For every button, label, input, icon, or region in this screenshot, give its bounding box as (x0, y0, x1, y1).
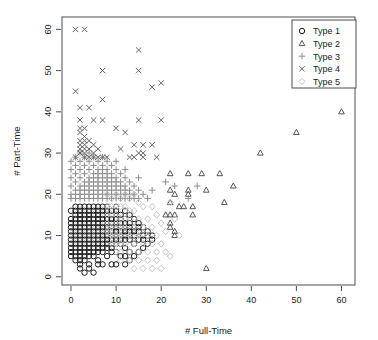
x-tick-label: 30 (201, 295, 211, 305)
marker-diamond (140, 203, 146, 209)
y-tick-label: 60 (43, 24, 53, 34)
marker-circle (140, 245, 145, 250)
marker-triangle (221, 199, 227, 204)
marker-plus (68, 175, 74, 181)
marker-plus (194, 183, 200, 189)
marker-cross (113, 126, 118, 131)
marker-cross (73, 27, 78, 32)
marker-plus (131, 183, 137, 189)
marker-cross (91, 117, 96, 122)
legend-label-1: Type 1 (313, 26, 340, 36)
marker-plus (149, 187, 155, 193)
marker-plus (122, 175, 128, 181)
marker-triangle (167, 171, 173, 176)
marker-triangle (190, 204, 196, 209)
x-tick-label: 20 (156, 295, 166, 305)
marker-cross (149, 84, 154, 89)
marker-circle (104, 253, 109, 258)
marker-triangle (203, 265, 209, 270)
marker-triangle (217, 171, 223, 176)
marker-triangle (199, 171, 205, 176)
marker-plus (77, 166, 83, 172)
series-1 (68, 204, 155, 275)
marker-circle (131, 253, 136, 258)
marker-diamond (145, 257, 151, 263)
marker-circle (122, 262, 127, 267)
marker-cross (149, 142, 154, 147)
marker-triangle (339, 109, 345, 114)
scatter-plot-figure: 01020304050600102030405060# Full-Time# P… (0, 0, 378, 340)
marker-plus (113, 166, 119, 172)
legend-label-4: Type 4 (313, 64, 340, 74)
marker-cross (136, 117, 141, 122)
x-tick-label: 40 (246, 295, 256, 305)
marker-circle (122, 245, 127, 250)
marker-plus (162, 179, 168, 185)
x-tick-label: 60 (336, 295, 346, 305)
marker-diamond (158, 265, 164, 271)
marker-plus (68, 166, 74, 172)
marker-plus (86, 166, 92, 172)
x-tick-label: 10 (111, 295, 121, 305)
marker-cross (82, 27, 87, 32)
marker-diamond (154, 257, 160, 263)
marker-plus (171, 183, 177, 189)
marker-diamond (154, 212, 160, 218)
marker-cross (77, 105, 82, 110)
marker-plus (68, 183, 74, 189)
marker-circle (91, 270, 96, 275)
legend-label-5: Type 5 (313, 77, 340, 87)
marker-diamond (140, 265, 146, 271)
marker-circle (127, 212, 132, 217)
marker-cross (136, 47, 141, 52)
marker-diamond (163, 249, 169, 255)
marker-plus (77, 175, 83, 181)
marker-cross (158, 80, 163, 85)
y-tick-label: 40 (43, 107, 53, 117)
y-tick-label: 30 (43, 148, 53, 158)
series-4 (73, 27, 164, 160)
marker-cross (100, 117, 105, 122)
marker-cross (131, 142, 136, 147)
marker-diamond (131, 265, 137, 271)
y-tick-label: 50 (43, 66, 53, 76)
marker-plus (72, 162, 78, 168)
marker-cross (131, 154, 136, 159)
marker-cross (158, 117, 163, 122)
marker-plus (90, 162, 96, 168)
legend-label-2: Type 2 (313, 39, 340, 49)
marker-plus (72, 170, 78, 176)
marker-plus (108, 162, 114, 168)
marker-diamond (149, 265, 155, 271)
marker-plus (113, 158, 119, 164)
marker-cross (127, 154, 132, 159)
series-2 (163, 109, 344, 271)
marker-diamond (158, 220, 164, 226)
y-axis-label: # Part-Time (11, 126, 22, 175)
marker-plus (135, 195, 141, 201)
marker-cross (77, 117, 82, 122)
marker-plus (81, 162, 87, 168)
marker-triangle (294, 129, 300, 134)
series-5 (104, 191, 182, 272)
marker-cross (100, 97, 105, 102)
y-tick-label: 10 (43, 231, 53, 241)
marker-cross (100, 68, 105, 73)
marker-plus (135, 175, 141, 181)
x-axis-label: # Full-Time (185, 325, 232, 336)
x-tick-label: 0 (69, 295, 74, 305)
marker-plus (126, 179, 132, 185)
legend: Type 1Type 2Type 3Type 4Type 5 (292, 20, 356, 88)
marker-diamond (158, 241, 164, 247)
marker-cross (122, 130, 127, 135)
marker-triangle (167, 187, 173, 192)
marker-triangle (185, 171, 191, 176)
marker-cross (86, 105, 91, 110)
marker-plus (135, 187, 141, 193)
y-tick-label: 0 (43, 274, 53, 279)
marker-diamond (154, 249, 160, 255)
marker-diamond (145, 216, 151, 222)
marker-cross (136, 68, 141, 73)
marker-plus (144, 195, 150, 201)
marker-triangle (230, 183, 236, 188)
